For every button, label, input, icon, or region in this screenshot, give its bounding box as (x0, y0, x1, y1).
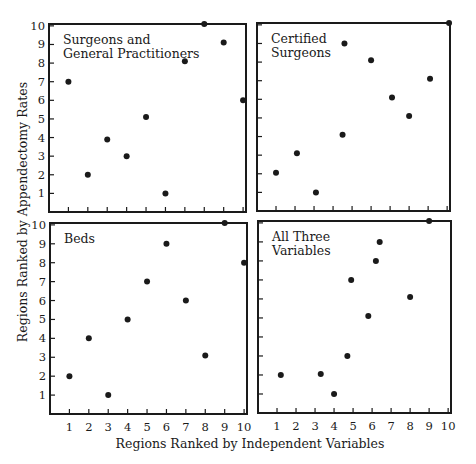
x-tick-label: 1 (273, 419, 280, 433)
data-point (183, 298, 189, 304)
data-point (273, 170, 279, 176)
data-point (373, 258, 379, 264)
data-point (201, 21, 207, 27)
y-tick-label: 10 (30, 19, 45, 33)
data-point (331, 391, 337, 397)
panel-title: Surgeons (271, 45, 331, 60)
x-tick-label: 2 (292, 419, 299, 433)
data-point (313, 189, 319, 195)
data-point (341, 40, 347, 46)
data-point (202, 352, 208, 358)
data-point (144, 279, 150, 285)
data-point (221, 40, 227, 46)
data-point (377, 239, 383, 245)
x-tick-label: 9 (425, 419, 432, 433)
data-point (426, 218, 432, 224)
data-point (389, 94, 395, 100)
panel-top-left: 12345678910Surgeons andGeneral Practitio… (30, 19, 246, 212)
data-point (446, 20, 452, 26)
data-point (278, 372, 284, 378)
y-tick-label: 6 (39, 294, 46, 308)
x-tick-label: 7 (182, 420, 189, 434)
data-point (340, 132, 346, 138)
y-tick-label: 1 (39, 388, 46, 402)
data-point (222, 220, 228, 226)
x-tick-label: 10 (441, 419, 456, 433)
x-tick-label: 4 (330, 419, 337, 433)
x-tick-label: 10 (237, 420, 252, 434)
data-point (65, 79, 71, 85)
x-tick-label: 1 (66, 420, 73, 434)
x-tick-label: 4 (124, 420, 131, 434)
panel-bottom-left: 1234567891012345678910Beds (31, 218, 251, 434)
y-tick-label: 7 (38, 75, 45, 89)
x-tick-label: 3 (105, 420, 112, 434)
panel-title: Surgeons and (63, 32, 150, 47)
x-tick-label: 5 (349, 419, 356, 433)
data-point (318, 371, 324, 377)
data-point (240, 97, 246, 103)
y-tick-label: 5 (38, 112, 45, 126)
data-point (162, 190, 168, 196)
data-point (368, 57, 374, 63)
y-tick-label: 2 (38, 168, 45, 182)
x-tick-label: 6 (163, 420, 170, 434)
y-tick-label: 4 (39, 331, 46, 345)
data-point (365, 313, 371, 319)
y-axis-label: Regions Ranked by Appendectomy Rates (15, 82, 30, 342)
x-tick-label: 7 (387, 419, 394, 433)
y-tick-label: 3 (39, 350, 46, 364)
data-point (104, 136, 110, 142)
data-point (406, 113, 412, 119)
x-tick-label: 9 (221, 420, 228, 434)
panel-bottom-right: 12345678910All ThreeVariables (258, 218, 455, 433)
scatter-panels: 12345678910Surgeons andGeneral Practitio… (0, 0, 476, 464)
x-tick-label: 8 (406, 419, 413, 433)
x-tick-label: 3 (311, 419, 318, 433)
data-point (85, 172, 91, 178)
y-tick-label: 6 (38, 93, 45, 107)
y-tick-label: 9 (38, 37, 45, 51)
data-point (105, 392, 111, 398)
panel-title: All Three (271, 229, 330, 244)
y-tick-label: 9 (39, 237, 46, 251)
y-tick-label: 1 (38, 186, 45, 200)
data-point (124, 153, 130, 159)
data-point (241, 260, 247, 266)
data-point (348, 277, 354, 283)
y-tick-label: 3 (38, 149, 45, 163)
data-point (427, 76, 433, 82)
y-tick-label: 8 (38, 56, 45, 70)
y-tick-label: 5 (39, 312, 46, 326)
panel-title: Variables (271, 243, 331, 258)
panel-title: Certified (271, 31, 327, 46)
y-tick-label: 8 (39, 256, 46, 270)
panel-frame (50, 223, 247, 414)
panel-title: General Practitioners (63, 46, 199, 61)
panel-title: Beds (64, 231, 95, 246)
y-tick-label: 4 (38, 131, 45, 145)
data-point (125, 316, 131, 322)
x-tick-label: 8 (202, 420, 209, 434)
data-point (163, 241, 169, 247)
data-point (86, 335, 92, 341)
data-point (143, 114, 149, 120)
panel-top-right: CertifiedSurgeons (257, 20, 452, 211)
y-tick-label: 2 (39, 369, 46, 383)
x-tick-label: 6 (368, 419, 375, 433)
data-point (66, 373, 72, 379)
data-point (407, 294, 413, 300)
data-point (344, 353, 350, 359)
y-tick-label: 7 (39, 275, 46, 289)
data-point (294, 150, 300, 156)
x-tick-label: 5 (143, 420, 150, 434)
data-point (182, 58, 188, 64)
y-tick-label: 10 (31, 218, 46, 232)
x-axis-label: Regions Ranked by Independent Variables (116, 436, 385, 451)
x-tick-label: 2 (85, 420, 92, 434)
